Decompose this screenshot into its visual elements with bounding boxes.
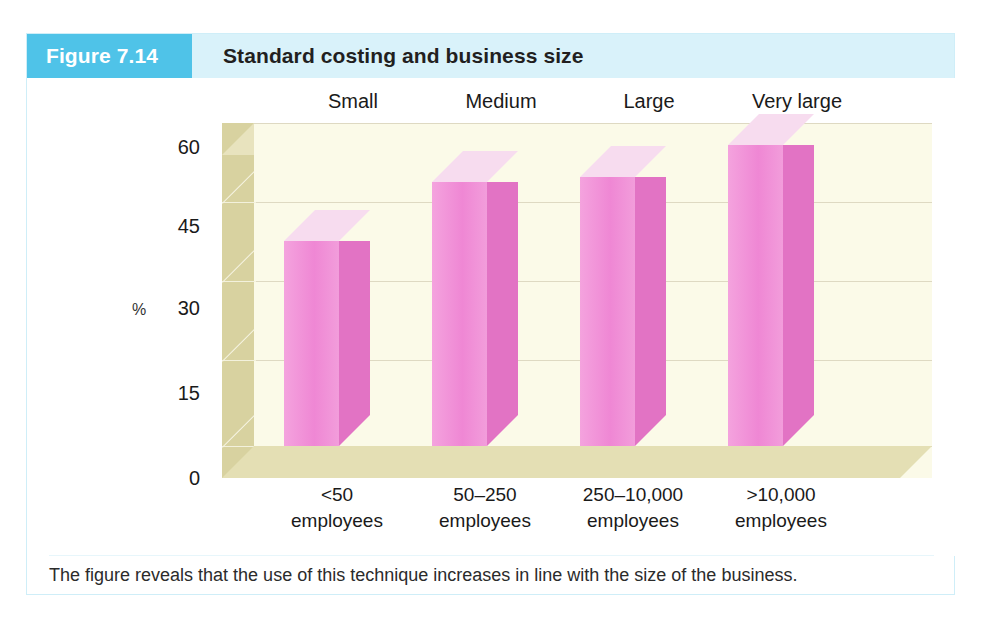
bar-side-medium: [487, 182, 518, 446]
bar-front-medium: [432, 182, 487, 446]
x-tick-label-3-line1: 250–10,000: [583, 482, 683, 508]
y-tick-label-45: 45: [154, 215, 200, 238]
figure-frame: Figure 7.14 Standard costing and busines…: [26, 33, 955, 595]
chart-floor: [222, 446, 932, 478]
figure-header: Figure 7.14 Standard costing and busines…: [27, 34, 954, 78]
bar-small: [284, 241, 339, 446]
category-label-medium: Medium: [465, 90, 536, 113]
bar-medium: [432, 182, 487, 446]
x-tick-label-2-line2: employees: [439, 508, 531, 534]
bar-front-small: [284, 241, 339, 446]
y-axis-title: %: [132, 301, 146, 319]
x-tick-label-3-line2: employees: [583, 508, 683, 534]
x-tick-label-4: >10,000 employees: [735, 482, 827, 533]
figure-title: Standard costing and business size: [192, 34, 954, 78]
x-tick-label-1-line1: <50: [291, 482, 383, 508]
y-tick-label-30: 30: [154, 297, 200, 320]
chart-left-wall: [222, 123, 254, 478]
figure-caption: The figure reveals that the use of this …: [27, 556, 956, 595]
y-tick-label-15: 15: [154, 382, 200, 405]
x-tick-label-2: 50–250 employees: [439, 482, 531, 533]
x-tick-label-1: <50 employees: [291, 482, 383, 533]
y-tick-label-0: 0: [154, 467, 200, 490]
x-tick-label-2-line1: 50–250: [439, 482, 531, 508]
bar-front-large: [580, 177, 635, 446]
x-tick-label-4-line1: >10,000: [735, 482, 827, 508]
bar-side-large: [635, 177, 666, 446]
x-tick-label-1-line2: employees: [291, 508, 383, 534]
figure-number-tab: Figure 7.14: [27, 34, 192, 78]
category-label-large: Large: [623, 90, 674, 113]
x-tick-label-3: 250–10,000 employees: [583, 482, 683, 533]
bar-front-very-large: [728, 145, 783, 446]
chart-plot-area: 60 45 30 15 0 % Small Medium Large Very …: [27, 78, 956, 556]
bar-very-large: [728, 145, 783, 446]
x-tick-label-4-line2: employees: [735, 508, 827, 534]
bar-large: [580, 177, 635, 446]
y-tick-label-60: 60: [154, 136, 200, 159]
bar-side-very-large: [783, 145, 814, 446]
gridline-60: [254, 123, 932, 124]
category-label-small: Small: [328, 90, 378, 113]
category-label-very-large: Very large: [752, 90, 842, 113]
bar-side-small: [339, 241, 370, 446]
